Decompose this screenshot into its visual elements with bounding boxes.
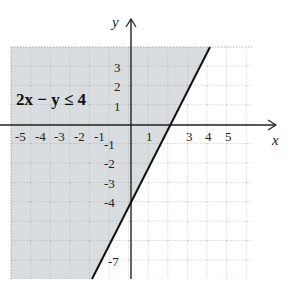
svg-text:-5: -5 (15, 129, 26, 144)
svg-text:-4: -4 (104, 195, 115, 210)
y-axis-label: y (110, 14, 119, 30)
svg-text:1: 1 (146, 129, 153, 144)
svg-text:3: 3 (186, 129, 193, 144)
svg-text:5: 5 (225, 129, 232, 144)
x-axis-label: x (271, 132, 279, 148)
svg-text:-2: -2 (104, 156, 115, 171)
svg-text:-7: -7 (108, 254, 119, 269)
svg-text:-3: -3 (54, 129, 65, 144)
svg-text:3: 3 (114, 60, 121, 75)
svg-text:-2: -2 (74, 129, 85, 144)
svg-text:-3: -3 (104, 176, 115, 191)
svg-text:-1: -1 (104, 137, 115, 152)
svg-text:2: 2 (114, 79, 121, 94)
svg-text:1: 1 (114, 99, 121, 114)
inequality-graph: x y -5 -4 -3 -2 -1 1 3 4 5 3 2 1 -1 -2 -… (0, 0, 291, 281)
svg-text:-4: -4 (35, 129, 46, 144)
svg-text:4: 4 (205, 129, 212, 144)
inequality-label: 2x − y ≤ 4 (16, 90, 87, 109)
